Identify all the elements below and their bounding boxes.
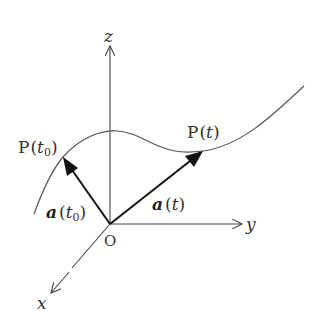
vector-a-t-shaft [110,161,190,224]
vector-label-a-t: a(t) [152,194,185,214]
x-axis-line-lower [51,272,69,293]
vector-label-a-t0: a(t0) [46,202,86,224]
z-axis: z [103,26,114,224]
x-axis: x [37,224,110,313]
x-axis-label: x [37,293,47,313]
y-axis-label: y [245,214,256,234]
vector-a-t0-arrowhead-icon [63,157,78,176]
point-label-p-t: P(t) [187,122,220,142]
origin-label: O [104,232,116,250]
z-axis-label: z [103,26,114,46]
point-label-p-t0: P(t0) [18,137,58,159]
y-axis: y [110,214,256,234]
space-curve-diagram: z y x O P(t0) P(t) a(t0) a(t) [0,0,322,331]
vector-a-t-arrowhead-icon [185,151,203,167]
